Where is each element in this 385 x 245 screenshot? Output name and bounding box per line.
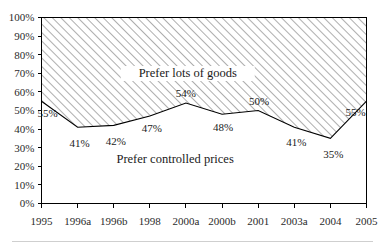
annotation-prefer-lots-of-goods: Prefer lots of goods: [139, 66, 237, 80]
data-point-label: 48%: [213, 121, 233, 133]
y-tick-label: 20%: [14, 160, 34, 172]
x-tick-label: 2000a: [172, 215, 199, 227]
data-point-label: 41%: [286, 136, 306, 148]
y-tick-label: 80%: [14, 49, 34, 61]
plot-area: [42, 18, 367, 204]
data-point-label: 47%: [142, 122, 162, 134]
data-point-label: 42%: [106, 135, 126, 147]
x-tick-label: 1996b: [100, 215, 128, 227]
x-tick-label: 2003a: [281, 215, 308, 227]
y-tick-label: 100%: [9, 11, 35, 23]
data-point-label: 35%: [323, 148, 343, 160]
y-tick-label: 30%: [14, 142, 34, 154]
y-tick-label: 0%: [20, 197, 35, 209]
y-tick-label: 90%: [14, 30, 34, 42]
y-tick-label: 50%: [14, 104, 34, 116]
data-point-label: 55%: [345, 106, 365, 118]
y-tick-label: 40%: [14, 123, 34, 135]
data-point-label: 55%: [37, 107, 57, 119]
chart-canvas: 0%10%20%30%40%50%60%70%80%90%100% 199519…: [0, 0, 385, 245]
y-tick-label: 70%: [14, 67, 34, 79]
x-tick-label: 2000b: [208, 215, 236, 227]
y-tick-label: 10%: [14, 179, 34, 191]
annotation-prefer-controlled-prices: Prefer controlled prices: [116, 152, 233, 166]
x-tick-label: 1995: [31, 215, 54, 227]
y-tick-label: 60%: [14, 86, 34, 98]
data-point-label: 54%: [176, 87, 196, 99]
x-tick-label: 2005: [356, 215, 379, 227]
area-chart: 0%10%20%30%40%50%60%70%80%90%100% 199519…: [0, 0, 385, 245]
x-tick-label: 1996a: [64, 215, 91, 227]
x-tick-label: 1998: [139, 215, 162, 227]
data-point-label: 50%: [249, 95, 269, 107]
x-tick-label: 2001: [247, 215, 269, 227]
data-point-label: 41%: [70, 137, 90, 149]
x-tick-label: 2004: [319, 215, 342, 227]
